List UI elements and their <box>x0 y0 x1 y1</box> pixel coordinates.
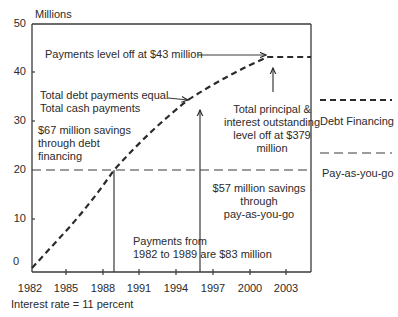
y-tick-40: 40 <box>4 65 26 77</box>
y-tick-10: 10 <box>4 212 26 224</box>
x-tick-1997: 1997 <box>201 282 225 294</box>
annotation-savings-payg-line1: $57 million savings <box>204 182 314 194</box>
annotation-payments-line1: Payments from <box>133 235 207 247</box>
annotation-payments-line2: 1982 to 1989 are $83 million <box>133 248 272 260</box>
y-tick-50: 50 <box>4 17 26 29</box>
y-axis-unit: Millions <box>35 8 72 20</box>
arrow-equal-payments <box>168 98 188 100</box>
y-tick-20: 20 <box>4 163 26 175</box>
footnote: Interest rate = 11 percent <box>11 298 133 310</box>
annotation-principal-line1: Total principal & <box>207 103 337 115</box>
x-tick-1982: 1982 <box>18 282 42 294</box>
annotation-principal-line3: level off at $379 <box>207 129 337 141</box>
x-tick-1991: 1991 <box>127 282 151 294</box>
x-tick-2003: 2003 <box>274 282 298 294</box>
annotation-principal-line2: interest outstanding <box>207 116 337 128</box>
y-tick-0: 0 <box>0 255 19 267</box>
x-tick-1994: 1994 <box>164 282 188 294</box>
legend-label-payg: Pay-as-you-go <box>322 167 394 179</box>
x-tick-1988: 1988 <box>91 282 115 294</box>
annotation-savings-payg-line3: pay-as-you-go <box>204 208 314 220</box>
x-tick-1985: 1985 <box>54 282 78 294</box>
annotation-level-off: Payments level off at $43 million <box>45 48 203 60</box>
x-tick-2000: 2000 <box>238 282 262 294</box>
annotation-equal-line2: Total cash payments <box>40 102 140 114</box>
annotation-savings-debt-line2: through debt <box>38 137 100 149</box>
annotation-savings-debt-line3: financing <box>38 150 82 162</box>
annotation-principal-line4: million <box>207 142 337 154</box>
legend-label-debt: Debt Financing <box>320 115 394 127</box>
annotation-savings-debt-line1: $67 million savings <box>38 124 131 136</box>
annotation-savings-payg-line2: through <box>204 195 314 207</box>
annotation-equal-line1: Total debt payments equal <box>40 89 168 101</box>
y-tick-30: 30 <box>4 114 26 126</box>
